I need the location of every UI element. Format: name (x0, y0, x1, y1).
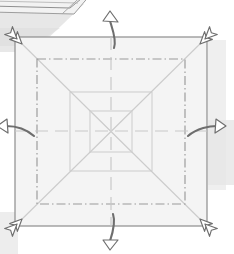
adjacent-figure-fragment (0, 0, 96, 14)
arrow-fold-bottom-center-head (103, 240, 118, 250)
arrow-fold-top-center-head (103, 11, 118, 22)
origami-diagram (0, 0, 234, 254)
diagram-canvas (0, 0, 234, 254)
arrow-fold-left-center-head (0, 119, 8, 133)
